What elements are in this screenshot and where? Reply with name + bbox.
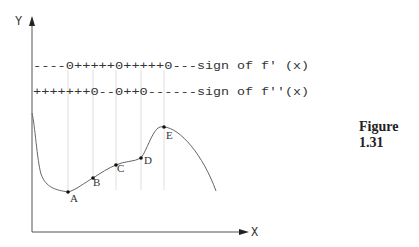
function-curve — [32, 113, 216, 192]
point-d-dot — [139, 156, 143, 160]
point-b-label: B — [93, 176, 100, 188]
f-prime-sign-label: sign of f' (x) — [197, 60, 309, 72]
y-axis-label: Y — [15, 15, 22, 29]
f-double-prime-sign-label: sign of f''(x) — [197, 86, 309, 98]
f-double-prime-sign-pattern: +++++++0--0++0------ — [33, 86, 197, 98]
point-c-label: C — [117, 162, 124, 174]
f-prime-sign-pattern: ----0+++++0+++++0--- — [33, 60, 197, 72]
x-axis-label: X — [251, 226, 258, 240]
point-e-label: E — [166, 129, 173, 141]
axes — [29, 16, 249, 235]
function-sign-diagram: A B C D E Y X ----0+++++0+++++0--- sign … — [0, 0, 419, 247]
point-d-label: D — [144, 154, 152, 166]
point-a-label: A — [70, 192, 78, 204]
y-axis-arrow-icon — [29, 16, 35, 26]
x-axis-arrow-icon — [239, 229, 249, 235]
figure-caption: Figure 1.31 — [359, 119, 419, 151]
